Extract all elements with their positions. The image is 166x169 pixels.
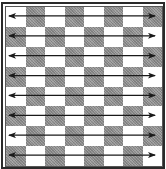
board-square [65, 146, 85, 166]
board-square [143, 146, 163, 166]
board-square [65, 27, 85, 47]
board-square [84, 67, 104, 87]
board-frame [1, 2, 165, 169]
board-square [45, 47, 65, 67]
board-square [143, 126, 163, 146]
board-square [84, 106, 104, 126]
chessboard [5, 6, 163, 167]
board-square [45, 67, 65, 87]
board-square [104, 67, 124, 87]
board-square [6, 87, 26, 107]
board-square [104, 106, 124, 126]
board-square [84, 126, 104, 146]
board-square [143, 47, 163, 67]
board-square [123, 87, 143, 107]
board-square [104, 7, 124, 27]
board-square [26, 47, 46, 67]
board-square [123, 67, 143, 87]
board-square [84, 47, 104, 67]
board-square [123, 27, 143, 47]
board-square [6, 47, 26, 67]
board-square [6, 146, 26, 166]
board-square [45, 146, 65, 166]
board-square [143, 87, 163, 107]
board-square [6, 126, 26, 146]
board-square [123, 146, 143, 166]
board-square [45, 27, 65, 47]
board-square [45, 7, 65, 27]
board-square [65, 126, 85, 146]
board-square [65, 106, 85, 126]
board-square [84, 87, 104, 107]
board-square [143, 7, 163, 27]
board-square [26, 126, 46, 146]
board-square [6, 67, 26, 87]
board-square [45, 87, 65, 107]
board-square [45, 106, 65, 126]
board-square [104, 47, 124, 67]
board-square [65, 67, 85, 87]
board-square [123, 47, 143, 67]
board-square [26, 106, 46, 126]
board-square [65, 47, 85, 67]
board-square [123, 106, 143, 126]
board-square [84, 27, 104, 47]
board-square [104, 126, 124, 146]
board-square [26, 67, 46, 87]
board-square [45, 126, 65, 146]
board-square [6, 7, 26, 27]
board-square [26, 146, 46, 166]
board-square [104, 87, 124, 107]
board-square [143, 67, 163, 87]
board-square [143, 27, 163, 47]
board-square [6, 27, 26, 47]
board-square [143, 106, 163, 126]
board-square [123, 7, 143, 27]
board-square [84, 7, 104, 27]
board-square [6, 106, 26, 126]
board-square [84, 146, 104, 166]
board-square [65, 7, 85, 27]
board-square [104, 146, 124, 166]
board-square [26, 7, 46, 27]
board-square [26, 27, 46, 47]
board-square [65, 87, 85, 107]
board-square [26, 87, 46, 107]
board-square [123, 126, 143, 146]
board-square [104, 27, 124, 47]
